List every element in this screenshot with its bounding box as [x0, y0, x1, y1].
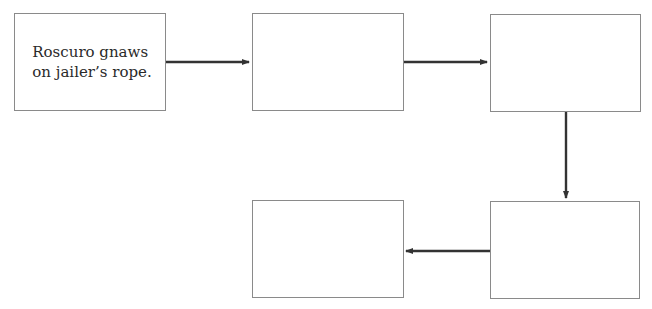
flow-box-2: [252, 13, 404, 111]
flow-box-1: Roscuro gnaws on jailer’s rope.: [14, 13, 166, 111]
flow-box-3: [490, 14, 641, 112]
flow-box-1-text: Roscuro gnaws on jailer’s rope.: [28, 42, 151, 82]
flow-box-5: [252, 200, 404, 298]
flow-box-4: [490, 201, 640, 299]
